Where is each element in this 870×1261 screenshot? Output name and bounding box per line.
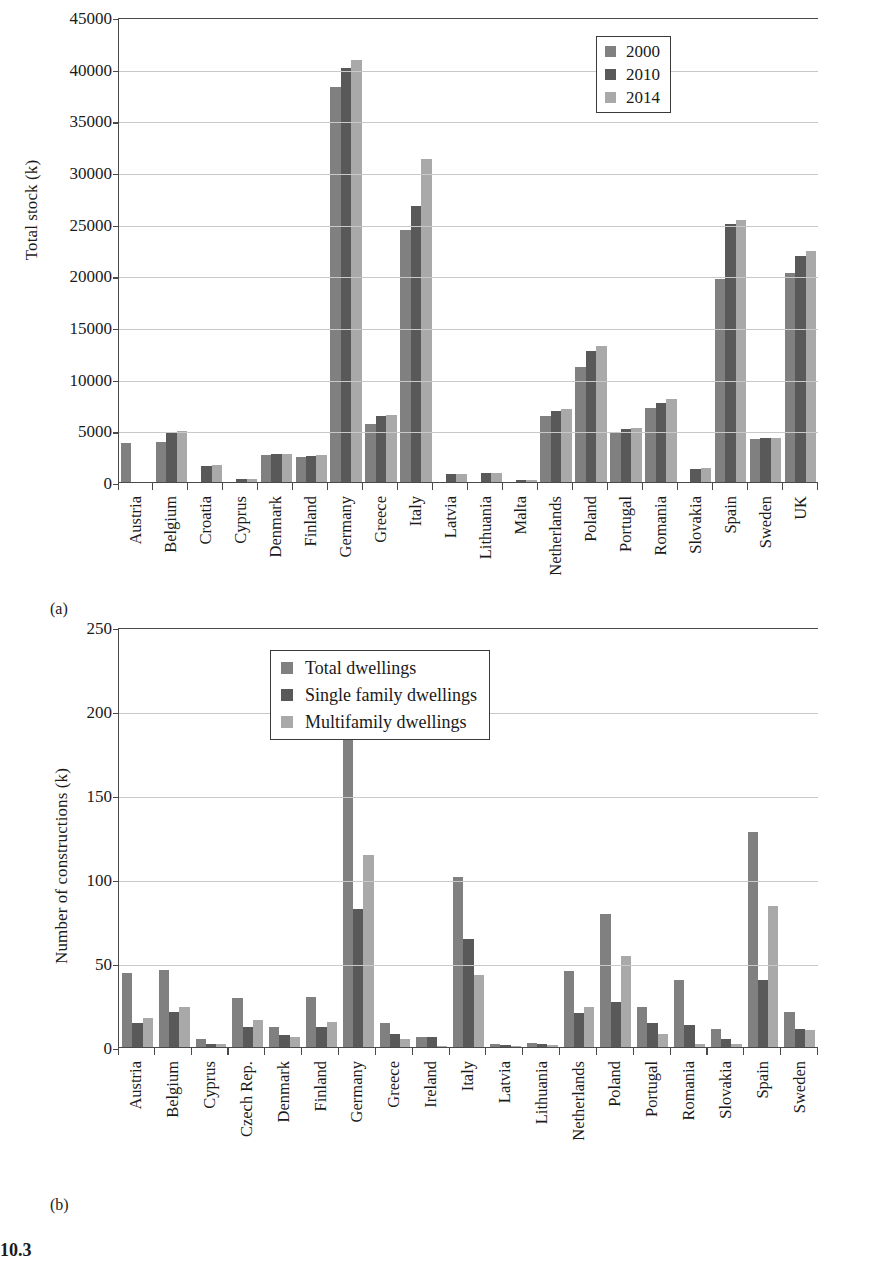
chart-a-y-tick-labels: 0500010000150002000025000300003500040000… [30, 18, 112, 483]
x-axis-tick-label: Sweden [757, 496, 774, 548]
bar-group [538, 19, 573, 482]
x-tick-slot [188, 483, 223, 490]
bar [201, 466, 211, 482]
gridline [119, 174, 818, 175]
legend-swatch-icon [281, 716, 293, 728]
y-tick-label: 200 [32, 704, 112, 721]
bar [758, 980, 768, 1047]
bar [610, 433, 620, 482]
gridline [119, 381, 818, 382]
x-label-slot: Austria [118, 492, 153, 612]
x-axis-tick-label: Poland [607, 1061, 624, 1107]
bar [725, 224, 735, 482]
legend-label: 2010 [626, 66, 660, 83]
x-label-slot: Finland [293, 492, 328, 612]
bar [784, 1012, 794, 1047]
y-tick-mark [113, 19, 119, 20]
bar [206, 1044, 216, 1047]
figure-number: 10.3 [0, 1240, 32, 1261]
chart-a-legend: 200020102014 [596, 36, 671, 113]
gridline [119, 226, 818, 227]
gridline [119, 329, 818, 330]
bar [500, 1045, 510, 1047]
bar [400, 230, 410, 482]
bar-group [259, 19, 294, 482]
y-tick-mark [113, 329, 119, 330]
legend-item: 2014 [605, 89, 660, 106]
bar [143, 1018, 153, 1047]
bar [341, 68, 351, 482]
bar-group [294, 19, 329, 482]
x-axis-tick-label: Slovakia [687, 496, 704, 554]
bar [179, 1007, 189, 1047]
x-label-slot: Sweden [781, 1057, 818, 1177]
x-axis-tick-label: Ireland [423, 1061, 440, 1108]
x-axis-tick-label: Portugal [617, 496, 634, 552]
x-axis-tick-label: Latvia [442, 496, 459, 538]
x-tick-slot [643, 483, 678, 490]
x-tick-slot [468, 483, 503, 490]
x-tick-slot [503, 483, 538, 490]
bar [511, 1046, 521, 1047]
x-label-slot: Spain [713, 492, 748, 612]
y-tick-mark [113, 381, 119, 382]
bar [748, 832, 758, 1047]
x-label-slot: UK [783, 492, 818, 612]
x-tick-slot [713, 483, 748, 490]
bar [253, 1020, 263, 1047]
bar [527, 1043, 537, 1047]
bar [645, 408, 655, 482]
x-axis-tick-label: Germany [349, 1061, 366, 1122]
x-label-slot: Belgium [155, 1057, 192, 1177]
x-axis-tick-label: Spain [755, 1061, 772, 1099]
x-axis-tick-label: Poland [582, 496, 599, 542]
x-label-slot: Austria [118, 1057, 155, 1177]
bar-group [229, 629, 266, 1047]
gridline [119, 797, 818, 798]
bar [243, 1027, 253, 1047]
bar [159, 970, 169, 1047]
x-label-slot: Portugal [608, 492, 643, 612]
x-axis-tick-label: Lithuania [533, 1061, 550, 1124]
legend-swatch-icon [605, 46, 616, 57]
x-tick-slot [560, 1048, 597, 1055]
bar-group [708, 629, 745, 1047]
legend-swatch-icon [605, 69, 616, 80]
bar-group [399, 19, 434, 482]
x-axis-tick-label: Italy [407, 496, 424, 526]
x-tick-slot [634, 1048, 671, 1055]
chart-a-bar-groups [119, 19, 818, 482]
x-tick-slot [608, 483, 643, 490]
y-tick-label: 25000 [32, 216, 112, 233]
bar [736, 220, 746, 482]
gridline [119, 965, 818, 966]
bar [463, 939, 473, 1047]
x-tick-slot [538, 483, 573, 490]
bar-group [783, 19, 818, 482]
bar [121, 443, 131, 482]
bar [290, 1037, 300, 1047]
legend-swatch-icon [605, 92, 616, 103]
bar [282, 454, 292, 482]
x-tick-slot [302, 1048, 339, 1055]
x-label-slot: Netherlands [538, 492, 573, 612]
y-tick-label: 35000 [32, 113, 112, 130]
x-tick-slot [783, 483, 818, 490]
bar-group [193, 629, 230, 1047]
x-tick-slot [376, 1048, 413, 1055]
chart-b-y-tick-labels: 050100150200250 [30, 628, 112, 1048]
y-tick-mark [113, 277, 119, 278]
x-axis-tick-label: Greece [386, 1061, 403, 1108]
bar-group [597, 629, 634, 1047]
y-tick-mark [113, 226, 119, 227]
bar-group [189, 19, 224, 482]
bar [306, 997, 316, 1047]
legend-item: 2010 [605, 66, 660, 83]
x-label-slot: Greece [363, 492, 398, 612]
y-tick-mark [113, 174, 119, 175]
x-label-slot: Finland [302, 1057, 339, 1177]
x-tick-slot [118, 483, 153, 490]
x-axis-tick-label: Netherlands [547, 496, 564, 576]
bar [564, 971, 574, 1047]
x-tick-slot [781, 1048, 818, 1055]
